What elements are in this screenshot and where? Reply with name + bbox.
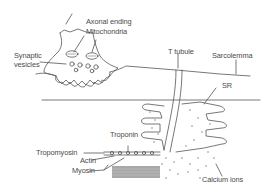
sr-right [176, 102, 227, 152]
label-tropomyosin: Tropomyosin [36, 149, 77, 156]
t-tubule [164, 70, 182, 152]
label-synaptic: Synaptic [14, 52, 42, 59]
label-troponin: Troponin [110, 131, 138, 138]
label-calcium-ions: Calcium ions [202, 176, 243, 183]
sr-left [142, 104, 165, 150]
label-sr: SR [222, 82, 232, 89]
label-vesicles: vesicles [14, 61, 40, 68]
label-mitochondria: Mitochondria [86, 28, 127, 35]
label-axonal-ending: Axonal ending [86, 18, 132, 25]
sarcolemma-membrane [110, 66, 250, 76]
label-myosin: Myosin [72, 167, 95, 174]
label-actin: Actin [80, 157, 96, 164]
diagram-canvas [0, 0, 266, 192]
label-t-tubule: T tubule [168, 48, 194, 55]
label-sarcolemma: Sarcolemma [212, 52, 252, 59]
